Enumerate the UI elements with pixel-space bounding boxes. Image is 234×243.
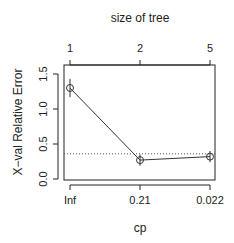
- x-axis-title: cp: [134, 221, 147, 235]
- y-axis: 0.00.51.01.5: [37, 66, 58, 186]
- top-axis-title: size of tree: [111, 11, 170, 25]
- y-tick-label: 1.5: [37, 66, 49, 81]
- x-tick-label: 0.21: [129, 194, 150, 206]
- top-axis: 125: [67, 42, 213, 65]
- top-tick-label: 5: [207, 42, 213, 54]
- top-tick-label: 1: [67, 42, 73, 54]
- cp-plot: size of tree 125 0.00.51.01.5 X−val Rela…: [0, 0, 234, 243]
- y-tick-label: 0.5: [37, 136, 49, 151]
- x-tick-label: 0.022: [196, 194, 224, 206]
- y-tick-label: 0.0: [37, 171, 49, 186]
- xerror-line: [70, 88, 210, 160]
- xerror-series: [67, 79, 214, 166]
- top-tick-label: 2: [137, 42, 143, 54]
- x-axis: Inf0.210.022: [64, 185, 224, 206]
- y-tick-label: 1.0: [37, 101, 49, 116]
- x-tick-label: Inf: [64, 194, 77, 206]
- y-axis-title: X−val Relative Error: [11, 68, 25, 175]
